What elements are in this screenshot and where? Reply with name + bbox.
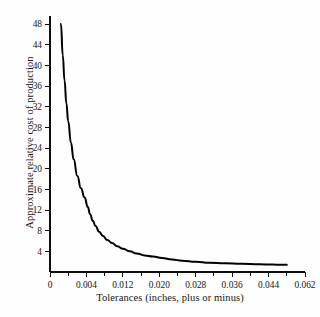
- y-tick-label-group: 4812162024283236404448: [33, 19, 43, 256]
- x-axis-title: Tolerances (inches, plus or minus): [36, 292, 304, 303]
- y-tick-label: 32: [33, 102, 43, 112]
- x-tick-label: 0.062: [294, 280, 315, 290]
- plot-area: 4812162024283236404448 00.0040.0120.0200…: [0, 0, 320, 317]
- y-tick-label: 24: [33, 143, 43, 153]
- y-tick-mark-group: [45, 24, 50, 251]
- y-tick-label: 28: [33, 123, 43, 133]
- x-tick-mark-group: [50, 272, 305, 277]
- y-tick-label: 8: [37, 226, 42, 236]
- y-tick-label: 12: [33, 205, 43, 215]
- x-tick-label: 0: [48, 280, 53, 290]
- x-tick-label: 0.044: [258, 280, 279, 290]
- x-tick-label: 0.012: [112, 280, 133, 290]
- x-tick-label: 0.036: [222, 280, 243, 290]
- x-tick-label: 0.004: [76, 280, 97, 290]
- y-tick-label: 40: [33, 61, 43, 71]
- data-series-line: [61, 24, 287, 265]
- x-tick-label: 0.028: [185, 280, 206, 290]
- x-tick-label: 0.020: [149, 280, 170, 290]
- x-tick-label-group: 00.0040.0120.0200.0280.0360.0440.062: [48, 280, 316, 290]
- y-tick-label: 36: [33, 81, 43, 91]
- y-tick-label: 4: [37, 247, 42, 257]
- y-tick-label: 48: [33, 19, 43, 29]
- y-tick-label: 16: [33, 185, 43, 195]
- cost-vs-tolerance-chart: Approximate relative cost of production …: [0, 0, 320, 317]
- y-tick-label: 44: [33, 40, 43, 50]
- y-tick-label: 20: [33, 164, 43, 174]
